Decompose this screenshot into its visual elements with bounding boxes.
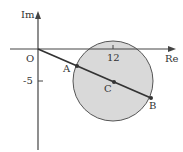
real-axis-arrow-icon <box>168 46 176 52</box>
point-B-label: B <box>149 100 156 111</box>
imaginary-axis-arrow-icon <box>35 11 41 19</box>
x-tick-label: 12 <box>107 52 120 63</box>
x-axis-label: Re <box>165 53 179 64</box>
point-A <box>75 64 79 68</box>
origin-label: O <box>26 53 34 64</box>
y-tick-label: -5 <box>23 75 33 86</box>
point-A-label: A <box>62 63 71 74</box>
point-C <box>112 80 116 84</box>
complex-plane-diagram: Im Re O 12 -5 A B C <box>0 0 183 152</box>
y-axis-label: Im <box>21 9 35 20</box>
point-C-label: C <box>104 83 112 94</box>
